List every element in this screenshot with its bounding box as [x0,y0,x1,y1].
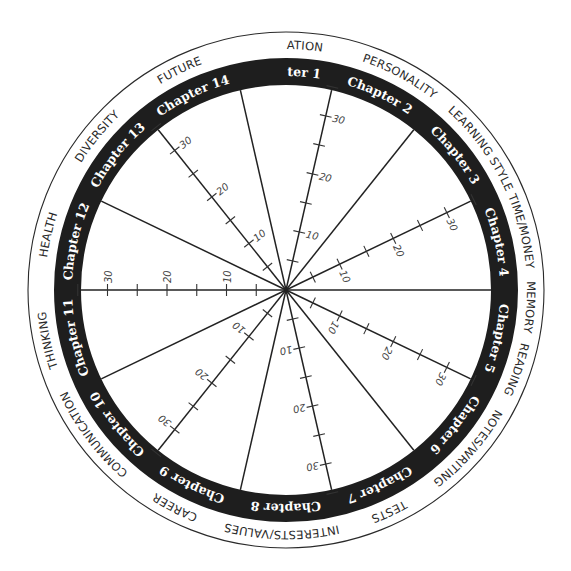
topic-label: MEMORY [520,281,538,335]
scale-tick [310,298,315,309]
scale-tick-label: 10 [222,270,233,283]
scale-tick [207,193,216,200]
spoke-line [101,290,286,379]
scale-tick-label: 30 [305,460,320,474]
scale-tick [391,233,396,244]
life-wheel-diagram: 1020301020301020301020301020301020301020… [0,0,571,571]
scale-tick [207,379,216,386]
scale-tick-label: 10 [251,227,268,244]
scale-tick-label: 30 [103,270,114,283]
scale-tick-label: 30 [433,371,448,387]
scale-tick [337,259,342,270]
topic-label: HEALTH [36,210,60,258]
scale-tick [337,310,342,321]
scale-tick-label: 30 [444,217,459,233]
scale-tick [310,272,315,283]
spoke-line [286,290,414,450]
scale-axis: 102030 [151,115,301,294]
scale-tick [189,403,198,410]
scale-tick [417,349,422,360]
topic-label: MOTIVATION [0,0,324,55]
spoke-line [286,130,414,290]
scale-tick [170,147,179,154]
scale-tick-label: 30 [177,134,194,151]
scale-tick [244,240,253,247]
scale-tick [189,170,198,177]
scale-tick [444,207,449,218]
scale-tick [364,323,369,334]
scale-tick-label: 30 [331,113,346,127]
scale-tick-label: 10 [305,229,320,243]
scale-tick [170,426,179,433]
scale-axis: 102030 [78,270,286,296]
scale-tick-label: 20 [379,345,394,361]
spoke-line [240,90,286,290]
scale-axis: 102030 [267,289,338,498]
scale-tick [226,216,235,223]
scale-tick [417,220,422,231]
scale-tick-label: 10 [337,268,352,284]
scale-tick [263,310,272,317]
scale-tick [391,336,396,347]
spoke-line [240,290,286,490]
scale-axis: 102030 [283,194,482,308]
scale-tick-label: 20 [318,171,333,185]
spoke-line [101,201,286,290]
scale-tick [244,333,253,340]
scale-tick-label: 10 [326,320,341,336]
scale-tick-label: 20 [391,243,406,259]
scale-tick [226,356,235,363]
scale-tick-label: 20 [162,270,173,283]
scale-tick-label: 10 [279,344,294,358]
scale-tick-label: 20 [292,402,307,416]
scale-tick [263,263,272,270]
scale-tick [444,362,449,373]
scale-tick [364,246,369,257]
topic-label: INTERESTS/VALUES [223,520,341,542]
scale-tick-label: 20 [214,181,231,198]
